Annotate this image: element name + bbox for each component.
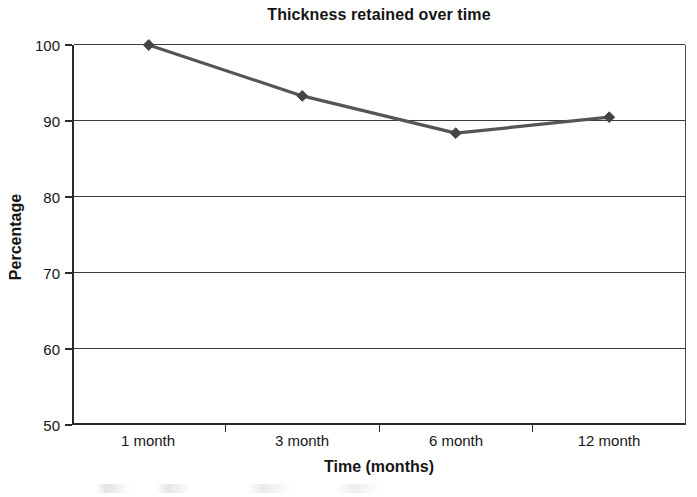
x-tick-mark-2 xyxy=(379,425,380,432)
gridline-80 xyxy=(74,196,685,197)
y-tick-mark-70 xyxy=(65,272,72,274)
gridline-60 xyxy=(74,348,685,349)
y-tick-label-60: 60 xyxy=(16,342,60,357)
x-tick-label-1-month: 1 month xyxy=(78,432,218,449)
y-tick-mark-60 xyxy=(65,348,72,350)
gridline-90 xyxy=(74,120,685,121)
x-tick-label-3-month: 3 month xyxy=(232,432,372,449)
y-tick-label-100: 100 xyxy=(16,38,60,53)
chart-figure: Thickness retained over time 100 90 80 7… xyxy=(0,0,697,497)
plot-area xyxy=(72,45,686,425)
y-tick-mark-100 xyxy=(65,44,72,46)
scan-artifact xyxy=(96,484,396,493)
x-tick-mark-3 xyxy=(532,425,533,432)
y-axis-title: Percentage xyxy=(7,157,25,317)
x-axis-title: Time (months) xyxy=(72,458,686,476)
x-tick-mark-1 xyxy=(225,425,226,432)
x-tick-label-12-month: 12 month xyxy=(539,432,679,449)
gridline-70 xyxy=(74,272,685,273)
chart-title: Thickness retained over time xyxy=(72,6,686,24)
y-tick-label-50: 50 xyxy=(16,418,60,433)
y-tick-mark-80 xyxy=(65,196,72,198)
y-tick-label-90: 90 xyxy=(16,114,60,129)
gridline-100 xyxy=(74,44,685,45)
y-tick-mark-50 xyxy=(65,424,72,426)
x-tick-label-6-month: 6 month xyxy=(386,432,526,449)
y-tick-mark-90 xyxy=(65,120,72,122)
